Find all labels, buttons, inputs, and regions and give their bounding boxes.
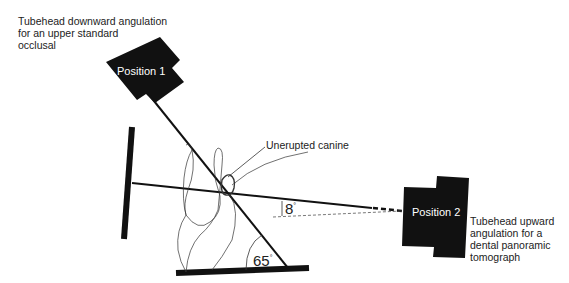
position-2-caption: Tubehead upward angulation for a dental … — [470, 215, 554, 263]
receptor-bar-left — [124, 127, 132, 239]
angle-8-label: 8° — [285, 200, 296, 217]
degree-symbol: ° — [293, 202, 296, 209]
position-1-caption: Tubehead downward angulation for an uppe… — [18, 15, 167, 51]
unerupted-canine-label: Unerupted canine — [266, 139, 349, 151]
position-1-label: Position 1 — [117, 65, 165, 77]
angle-65-label: 65° — [253, 252, 273, 269]
position-2-label: Position 2 — [412, 206, 460, 218]
receptor-bar-bottom — [176, 268, 309, 273]
beam-position-1 — [150, 96, 288, 268]
canine-leader-line — [228, 147, 265, 177]
beam-position-2-dashed — [373, 208, 403, 211]
angle-65-value: 65 — [253, 252, 270, 269]
degree-symbol: ° — [270, 254, 273, 261]
beam-position-2 — [132, 183, 372, 208]
